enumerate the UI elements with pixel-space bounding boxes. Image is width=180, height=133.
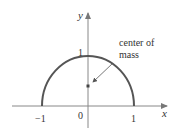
x-tick-0: 0 [78, 110, 83, 121]
center-of-mass-point [87, 85, 90, 88]
x-tick-neg1: −1 [35, 113, 46, 124]
x-axis-label: x [161, 107, 167, 119]
y-axis-label: y [77, 9, 83, 21]
center-of-mass-label-line1: center of [119, 37, 155, 48]
semicircle-diagram: y x 1 −1 0 1 center of mass [0, 0, 180, 133]
x-tick-1: 1 [131, 113, 136, 124]
y-tick-1: 1 [78, 47, 83, 58]
center-of-mass-label-line2: mass [119, 49, 139, 60]
annotation-arrow [93, 63, 113, 82]
